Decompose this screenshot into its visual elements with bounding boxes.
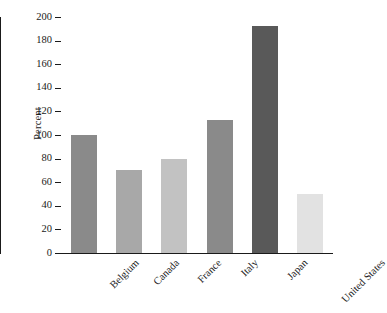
x-axis-label: Italy — [238, 257, 259, 278]
x-axis-label: Japan — [285, 257, 310, 282]
x-axis-line — [61, 253, 333, 254]
y-tick-label: 80 — [12, 153, 52, 164]
y-tick-label: 60 — [12, 177, 52, 188]
y-tick-mark — [55, 253, 61, 254]
x-axis-label: Canada — [151, 257, 181, 287]
y-tick-label: 100 — [12, 130, 52, 141]
y-axis-line — [0, 17, 1, 254]
y-tick-label: 180 — [12, 35, 52, 46]
bars-group — [61, 17, 333, 253]
x-axis-label: Belgium — [107, 257, 140, 290]
y-tick-label: 20 — [12, 224, 52, 235]
x-axis-label: United States — [340, 257, 387, 305]
bar — [161, 159, 187, 253]
y-tick-label: 0 — [12, 248, 52, 259]
y-tick-label: 200 — [12, 12, 52, 23]
bar — [252, 26, 278, 253]
y-axis-label: Percent — [32, 89, 43, 159]
bar — [116, 170, 142, 253]
bar — [207, 120, 233, 253]
y-tick-label: 120 — [12, 106, 52, 117]
x-axis-labels: BelgiumCanadaFranceItalyJapanUnited Stat… — [61, 257, 333, 313]
bar — [71, 135, 97, 253]
y-tick-label: 40 — [12, 200, 52, 211]
y-tick-label: 160 — [12, 59, 52, 70]
bar — [297, 194, 323, 253]
x-axis-label: France — [196, 257, 224, 285]
y-tick-label: 140 — [12, 82, 52, 93]
